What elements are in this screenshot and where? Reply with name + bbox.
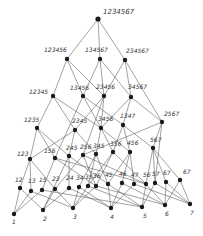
lattice-node (81, 94, 85, 98)
lattice-node (99, 126, 103, 130)
lattice-edge (30, 159, 31, 191)
node-label: 1235 (24, 116, 39, 123)
node-label: 2345 (72, 117, 87, 124)
lattice-node (178, 178, 182, 182)
lattice-edge (96, 128, 101, 154)
node-label: 47 (131, 171, 139, 178)
lattice-edge (146, 148, 153, 184)
lattice-node (12, 212, 16, 216)
lattice-node (160, 120, 164, 124)
lattice-edge (100, 59, 104, 96)
lattice-node (163, 203, 167, 207)
node-label: 345 (93, 142, 105, 149)
lattice-edge (53, 96, 75, 130)
node-label: 12 (15, 176, 23, 183)
lattice-node (77, 185, 81, 189)
node-label: 356 (110, 140, 122, 147)
lattice-edge (98, 19, 125, 60)
lattice-node (144, 182, 148, 186)
lattice-node (106, 182, 110, 186)
lattice-node (140, 205, 144, 209)
lattice-node (188, 202, 192, 206)
node-label: 23 (52, 175, 60, 182)
lattice-node (153, 181, 157, 185)
lattice-edge (131, 97, 162, 122)
node-label: 13456 (70, 84, 89, 91)
node-label: 5 (143, 212, 147, 219)
lattice-edge (69, 130, 75, 156)
lattice-node (102, 94, 106, 98)
node-label: 7 (190, 209, 194, 216)
node-label: 24 (66, 174, 74, 181)
lattice-edge (43, 156, 69, 210)
lattice-node (28, 157, 32, 161)
lattice-edge (42, 158, 55, 190)
node-label: 156 (44, 147, 56, 154)
lattice-node (121, 123, 125, 127)
lattice-edge (130, 152, 134, 184)
lattice-edge (31, 191, 73, 208)
node-label: 23456 (96, 83, 115, 90)
node-label: 57 (152, 170, 160, 177)
node-label: 456 (127, 139, 139, 146)
node-label: 35 (85, 173, 93, 180)
node-label: 2 (43, 215, 47, 222)
node-label: 3 (73, 213, 77, 220)
lattice-edge (79, 154, 96, 187)
lattice-node (164, 180, 168, 184)
lattice-node (98, 57, 102, 61)
node-label: 46 (119, 170, 127, 177)
lattice-edge (53, 59, 67, 96)
lattice-edge (37, 96, 53, 128)
node-label: 4 (110, 213, 114, 220)
lattice-node (111, 150, 115, 154)
lattice-node (53, 156, 57, 160)
lattice-node (129, 95, 133, 99)
node-label: 3456 (98, 115, 113, 122)
node-label: 36 (93, 172, 101, 179)
node-label: 567 (150, 136, 162, 143)
lattice-edge (43, 189, 55, 210)
lattice-node (41, 208, 45, 212)
lattice-node (71, 206, 75, 210)
lattice-edge (43, 188, 69, 210)
lattice-node (65, 57, 69, 61)
node-label: 256 (80, 143, 92, 150)
lattice-edge (166, 182, 190, 204)
lattice-node (35, 126, 39, 130)
lattice-node (53, 187, 57, 191)
lattice-node (40, 188, 44, 192)
node-label: 12345 (29, 88, 48, 95)
lattice-edge (30, 159, 55, 189)
node-label: 134567 (85, 46, 108, 53)
lattice-edge (67, 19, 98, 59)
lattice-node (151, 146, 155, 150)
node-label: 34 (76, 174, 84, 181)
lattice-edge (153, 148, 155, 183)
lattice-edge (180, 180, 190, 204)
node-label: 1234567 (103, 8, 135, 16)
lattice-node (29, 189, 33, 193)
lattice-node (67, 154, 71, 158)
lattice-node (51, 94, 55, 98)
lattice-edge (73, 186, 88, 208)
lattice-edge (98, 19, 100, 59)
node-label: 1 (12, 218, 16, 225)
node-label: 15 (39, 176, 47, 183)
node-label: 67 (183, 168, 191, 175)
lattice-node (18, 186, 22, 190)
lattice-edge (104, 60, 125, 96)
lattice-diagram: 1234567123456134567234567123451345623456… (0, 0, 203, 236)
lattice-node (123, 58, 127, 62)
node-label: 67 (163, 169, 171, 176)
node-label: 45 (105, 171, 113, 178)
lattice-node (109, 206, 113, 210)
lattice-edge (113, 125, 123, 152)
lattice-node (86, 184, 90, 188)
lattice-node (67, 186, 71, 190)
node-label: 123 (17, 150, 29, 157)
lattice-node (81, 153, 85, 157)
node-label: 123456 (44, 46, 67, 53)
lattice-edge (88, 152, 113, 186)
lattice-node (128, 150, 132, 154)
